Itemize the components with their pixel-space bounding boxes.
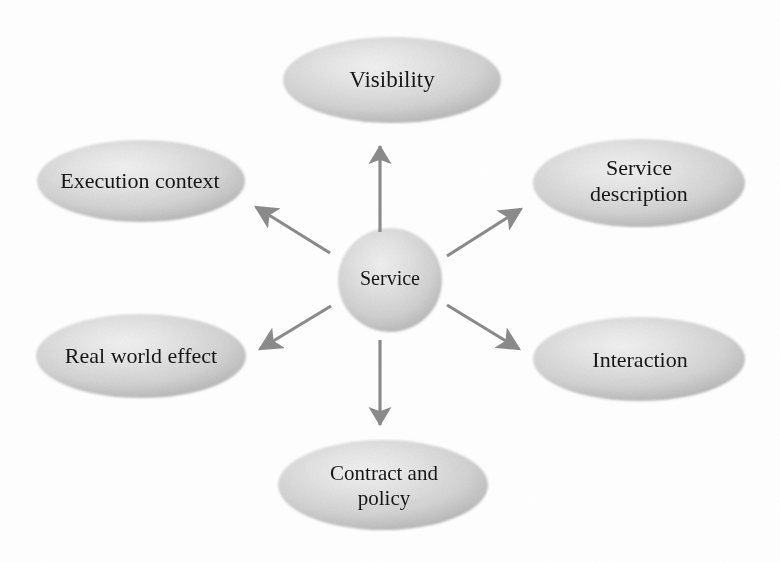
node-shape-execution-context [37,140,245,222]
node-shape-visibility [283,37,501,123]
arrow-to-real-world-effect [260,306,331,349]
node-shape-interaction [533,317,745,401]
node-shape-contract-and-policy [278,440,488,530]
arrow-to-interaction [447,305,519,349]
service-concept-diagram [0,0,780,562]
diagram-canvas: Visibility Execution context Service des… [0,0,780,562]
node-shape-service [338,228,442,332]
node-shape-service-description [533,139,745,227]
arrow-to-execution-context [256,207,330,253]
node-shape-real-world-effect [36,314,246,398]
arrow-to-service-description [447,209,521,256]
